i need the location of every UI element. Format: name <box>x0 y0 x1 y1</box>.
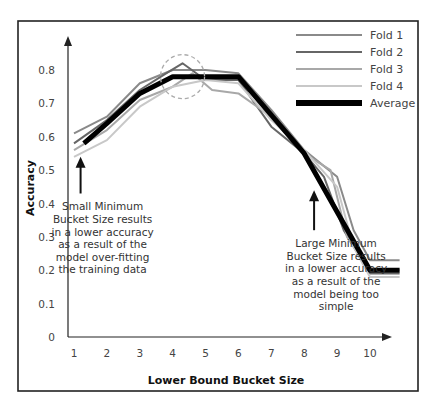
x-tick-label: 6 <box>235 347 242 359</box>
x-tick-label: 3 <box>136 347 143 359</box>
x-tick-label: 9 <box>334 347 341 359</box>
y-tick-label: 0.4 <box>38 198 55 210</box>
x-tick-label: 2 <box>104 347 111 359</box>
legend: Fold 1Fold 2Fold 3Fold 4Average <box>296 29 415 110</box>
x-tick-label: 4 <box>169 347 176 359</box>
x-tick-labels: 12345678910 <box>71 347 377 359</box>
annotations: Small MinimumBucket Size resultsin a low… <box>52 55 388 313</box>
y-tick-label: 0.1 <box>38 298 55 310</box>
y-tick-label: 0.2 <box>38 264 55 276</box>
y-tick-labels: 00.10.20.30.40.50.60.70.8 <box>38 64 55 343</box>
y-tick-label: 0.8 <box>38 64 55 76</box>
legend-label: Fold 4 <box>370 80 403 93</box>
x-tick-label: 8 <box>301 347 308 359</box>
legend-label: Fold 3 <box>370 63 403 76</box>
y-axis-arrow-icon <box>64 36 72 46</box>
legend-label: Fold 2 <box>370 46 403 59</box>
annotation-text: Large MinimumBucket Size resultsin a low… <box>285 237 387 312</box>
y-tick-label: 0.5 <box>38 164 55 176</box>
x-tick-label: 10 <box>363 347 376 359</box>
up-arrow-icon <box>309 190 319 201</box>
x-tick-label: 7 <box>268 347 275 359</box>
legend-label: Average <box>370 97 415 110</box>
x-tick-label: 1 <box>71 347 78 359</box>
accuracy-chart: 00.10.20.30.40.50.60.70.8 12345678910 Ac… <box>0 0 438 411</box>
x-tick-label: 5 <box>202 347 209 359</box>
legend-label: Fold 1 <box>370 29 403 42</box>
annotation-text: Small MinimumBucket Size resultsin a low… <box>52 200 154 275</box>
y-tick-label: 0 <box>48 331 55 343</box>
up-arrow-icon <box>76 157 86 168</box>
y-axis-title: Accuracy <box>24 160 37 216</box>
y-tick-label: 0.6 <box>38 131 55 143</box>
x-axis-arrow-icon <box>382 333 392 341</box>
x-axis-title: Lower Bound Bucket Size <box>148 374 305 387</box>
y-tick-label: 0.7 <box>38 97 55 109</box>
